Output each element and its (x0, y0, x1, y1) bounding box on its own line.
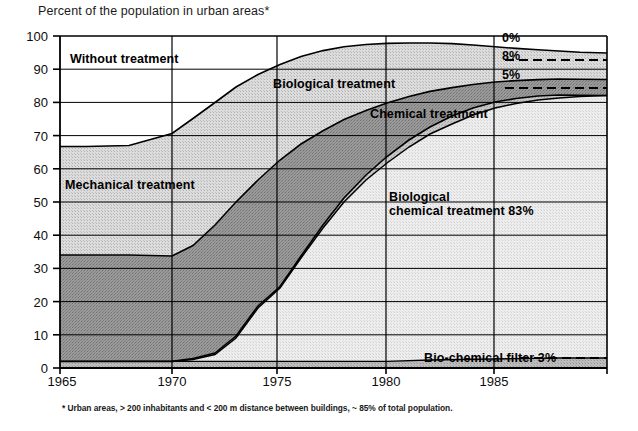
y-tick-label-70: 70 (14, 129, 48, 144)
band-label-without-treatment: Without treatment (70, 52, 179, 66)
y-tick-label-40: 40 (14, 228, 48, 243)
y-tick-label-50: 50 (14, 195, 48, 210)
end-label-biological: 5% (502, 68, 520, 82)
y-tick-label-10: 10 (14, 328, 48, 343)
band-label-biological-treatment: Biological treatment (273, 77, 395, 91)
x-tick-label-1985: 1985 (480, 374, 509, 389)
y-tick-label-20: 20 (14, 295, 48, 310)
footnote: * Urban areas, > 200 inhabitants and < 2… (62, 403, 452, 413)
chart-figure: Percent of the population in urban areas… (0, 0, 638, 431)
band-label-biological-chemical-line2: chemical treatment 83% (389, 204, 534, 218)
x-tick-label-1975: 1975 (263, 374, 292, 389)
chart-title: Percent of the population in urban areas… (38, 4, 269, 18)
band-label-chemical-treatment: Chemical treatment (370, 107, 488, 121)
y-tick-label-100: 100 (14, 29, 48, 44)
end-label-mechanical: 8% (502, 49, 520, 63)
y-tick-label-0: 0 (14, 361, 48, 376)
y-tick-label-80: 80 (14, 95, 48, 110)
band-label-mechanical-treatment: Mechanical treatment (65, 178, 195, 192)
y-tick-marks (53, 36, 60, 368)
y-tick-label-30: 30 (14, 261, 48, 276)
x-tick-label-1980: 1980 (372, 374, 401, 389)
band-label-biological-chemical-line1: Biological (389, 190, 450, 204)
band-label-biological-chemical-treatment: Biological chemical treatment 83% (389, 190, 534, 218)
x-tick-label-1970: 1970 (158, 374, 187, 389)
y-tick-label-60: 60 (14, 162, 48, 177)
end-label-without-treatment: 0% (502, 31, 520, 45)
band-label-bio-chemical-filter: Bio-chemical filter 3% (424, 351, 556, 365)
y-tick-label-90: 90 (14, 62, 48, 77)
x-tick-label-1965: 1965 (48, 374, 77, 389)
